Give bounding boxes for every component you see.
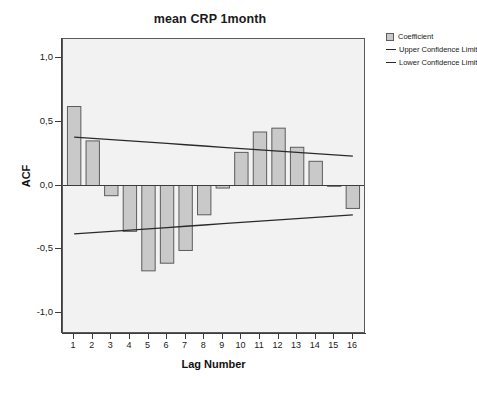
y-tick-label--0,5: -0,5 — [9, 242, 53, 253]
x-tick-label-5: 5 — [138, 340, 158, 350]
legend-label: Coefficient — [398, 32, 433, 41]
x-tick-label-10: 10 — [230, 340, 250, 350]
x-tick-label-12: 12 — [268, 340, 288, 350]
x-tick-label-9: 9 — [212, 340, 232, 350]
bar-lag-6 — [160, 186, 173, 264]
legend-line-icon — [386, 49, 396, 50]
bar-lag-11 — [253, 132, 266, 186]
bar-lag-2 — [86, 141, 99, 186]
x-tick — [296, 334, 297, 339]
legend-label: Lower Confidence Limit — [399, 58, 477, 67]
x-tick — [185, 334, 186, 339]
x-tick-label-4: 4 — [119, 340, 139, 350]
x-tick — [259, 334, 260, 339]
y-tick-label-0,5: 0,5 — [9, 115, 53, 126]
x-tick — [110, 334, 111, 339]
x-tick — [315, 334, 316, 339]
legend-item-lower-confidence-limit[interactable]: Lower Confidence Limit — [386, 57, 475, 68]
x-tick — [92, 334, 93, 339]
x-tick — [333, 334, 334, 339]
y-tick-label-0,0: 0,0 — [9, 179, 53, 190]
bar-lag-12 — [272, 128, 285, 185]
x-tick — [352, 334, 353, 339]
bar-lag-14 — [309, 161, 322, 185]
chart-legend: CoefficientUpper Confidence LimitLower C… — [386, 31, 475, 70]
x-tick-label-14: 14 — [305, 340, 325, 350]
x-tick — [148, 334, 149, 339]
x-tick — [166, 334, 167, 339]
lower-confidence-limit-line — [74, 215, 353, 234]
x-tick-label-1: 1 — [63, 340, 83, 350]
x-tick-label-6: 6 — [156, 340, 176, 350]
bar-lag-3 — [105, 186, 118, 196]
x-tick — [222, 334, 223, 339]
bar-lag-8 — [198, 186, 211, 215]
x-tick-label-15: 15 — [323, 340, 343, 350]
x-tick-label-2: 2 — [82, 340, 102, 350]
x-tick-label-13: 13 — [286, 340, 306, 350]
plot-svg — [63, 39, 364, 332]
bar-lag-10 — [235, 152, 248, 185]
legend-item-upper-confidence-limit[interactable]: Upper Confidence Limit — [386, 44, 475, 55]
bars-group — [67, 107, 359, 271]
x-tick — [203, 334, 204, 339]
plot-area — [62, 38, 365, 333]
bar-lag-16 — [346, 186, 359, 209]
legend-item-coefficient[interactable]: Coefficient — [386, 31, 475, 42]
x-tick-label-7: 7 — [175, 340, 195, 350]
chart-title: mean CRP 1month — [0, 12, 420, 26]
bar-lag-4 — [123, 186, 136, 232]
legend-label: Upper Confidence Limit — [399, 45, 477, 54]
x-axis-title: Lag Number — [62, 358, 365, 370]
x-tick-label-3: 3 — [100, 340, 120, 350]
legend-line-icon — [386, 62, 396, 63]
legend-box-icon — [386, 33, 394, 41]
y-tick-label--1,0: -1,0 — [9, 306, 53, 317]
x-tick — [240, 334, 241, 339]
x-tick-label-8: 8 — [193, 340, 213, 350]
x-tick — [73, 334, 74, 339]
x-axis-line — [62, 333, 366, 334]
y-axis-labels: 1,00,50,0-0,5-1,0 — [0, 0, 53, 393]
x-tick — [278, 334, 279, 339]
x-tick-label-16: 16 — [342, 340, 362, 350]
x-tick-label-11: 11 — [249, 340, 269, 350]
upper-confidence-limit-line — [74, 137, 353, 156]
x-tick — [129, 334, 130, 339]
bar-lag-7 — [179, 186, 192, 251]
y-tick-label-1,0: 1,0 — [9, 51, 53, 62]
bar-lag-1 — [67, 107, 80, 186]
